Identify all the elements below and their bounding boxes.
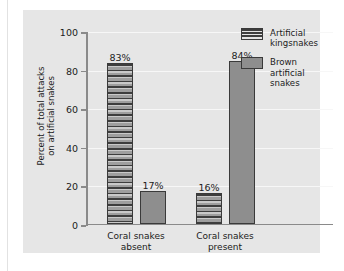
bar-value-label-kingsnakes-absent: 83%: [109, 52, 130, 63]
bar-value-label-brown-absent: 17%: [142, 180, 163, 191]
x-axis-label-coral-snakes-absent: Coral snakes absent: [107, 231, 164, 253]
striped-swatch-icon: [241, 28, 263, 40]
y-tick-label-0: 0: [72, 220, 78, 231]
legend-item-brown-artificial-snakes[interactable]: Brown artificial snakes: [241, 57, 341, 88]
y-tick-label-40: 40: [66, 142, 78, 153]
bar-kingsnakes-present[interactable]: 16%: [196, 193, 222, 224]
bar-brown-absent[interactable]: 17%: [140, 191, 166, 224]
y-tick-label-60: 60: [66, 104, 78, 115]
y-tick-label-80: 80: [66, 65, 78, 76]
x-axis-line: [86, 224, 333, 226]
legend-label-artificial-kingsnakes: Artificial kingsnakes: [270, 28, 318, 48]
y-axis-title: Percent of total attacks on artificial s…: [36, 31, 56, 201]
y-tick-label-100: 100: [60, 27, 78, 38]
y-tick-label-20: 20: [66, 181, 78, 192]
chart-legend: Artificial kingsnakes Brown artificial s…: [241, 28, 341, 97]
legend-item-artificial-kingsnakes[interactable]: Artificial kingsnakes: [241, 28, 341, 48]
y-axis-line: [86, 32, 88, 226]
legend-label-brown-artificial-snakes: Brown artificial snakes: [270, 57, 305, 88]
bar-kingsnakes-absent[interactable]: 83%: [107, 63, 133, 223]
x-axis-label-coral-snakes-present: Coral snakes present: [196, 231, 253, 253]
chart-panel: Percent of total attacks on artificial s…: [23, 10, 320, 253]
bar-value-label-kingsnakes-present: 16%: [198, 182, 219, 193]
bar-chart-figure: Percent of total attacks on artificial s…: [0, 0, 344, 271]
solid-swatch-icon: [241, 57, 263, 69]
